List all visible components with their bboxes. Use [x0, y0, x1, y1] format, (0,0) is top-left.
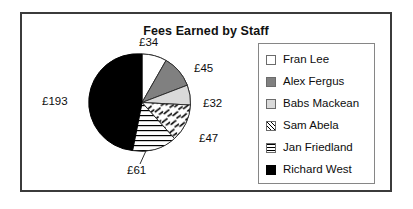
- black-swatch-icon: [266, 165, 276, 175]
- pie-slice-richard-west[interactable]: [89, 54, 142, 151]
- legend-item-alex-fergus[interactable]: Alex Fergus: [259, 71, 374, 93]
- dark-gray-swatch-icon: [266, 77, 276, 87]
- data-label-babs-mackean: £32: [203, 97, 222, 109]
- legend-label: Babs Mackean: [283, 98, 359, 110]
- legend-label: Alex Fergus: [283, 76, 344, 88]
- leader-line-jan-friedland: [140, 151, 146, 164]
- horizontal-lines-swatch-icon: [266, 143, 276, 153]
- pie-plot-area: £34 £45 £32 £47 £61 £193: [22, 40, 258, 192]
- legend-label: Sam Abela: [283, 120, 339, 132]
- legend-item-fran-lee[interactable]: Fran Lee: [259, 49, 374, 71]
- white-swatch-icon: [266, 55, 276, 65]
- legend-label: Fran Lee: [283, 54, 329, 66]
- data-label-jan-friedland: £61: [127, 164, 146, 176]
- legend-label: Jan Friedland: [283, 142, 353, 154]
- legend-item-babs-mackean[interactable]: Babs Mackean: [259, 93, 374, 115]
- legend-item-richard-west[interactable]: Richard West: [259, 159, 374, 181]
- light-gray-swatch-icon: [266, 99, 276, 109]
- dashed-pattern-swatch-icon: [266, 121, 276, 131]
- data-label-alex-fergus: £45: [194, 62, 213, 74]
- chart-title: Fees Earned by Staff: [22, 24, 390, 38]
- legend-label: Richard West: [283, 164, 352, 176]
- data-label-fran-lee: £34: [139, 36, 158, 48]
- legend: Fran Lee Alex Fergus Babs Mackean Sam Ab…: [258, 43, 375, 184]
- data-label-sam-abela: £47: [199, 132, 218, 144]
- data-label-richard-west: £193: [42, 95, 68, 107]
- chart-frame: Fees Earned by Staff: [20, 12, 392, 192]
- legend-item-sam-abela[interactable]: Sam Abela: [259, 115, 374, 137]
- legend-item-jan-friedland[interactable]: Jan Friedland: [259, 137, 374, 159]
